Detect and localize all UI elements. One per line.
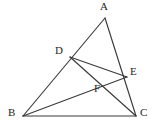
vertex-label-d: D [55, 45, 63, 56]
vertex-label-b: B [8, 107, 15, 118]
vertex-label-a: A [100, 1, 108, 12]
segment-ab [23, 18, 105, 116]
vertex-label-f: F [94, 83, 100, 94]
vertex-label-e: E [130, 66, 137, 77]
vertex-label-c: C [140, 107, 147, 118]
geometry-figure: A B C D E F [0, 0, 159, 129]
